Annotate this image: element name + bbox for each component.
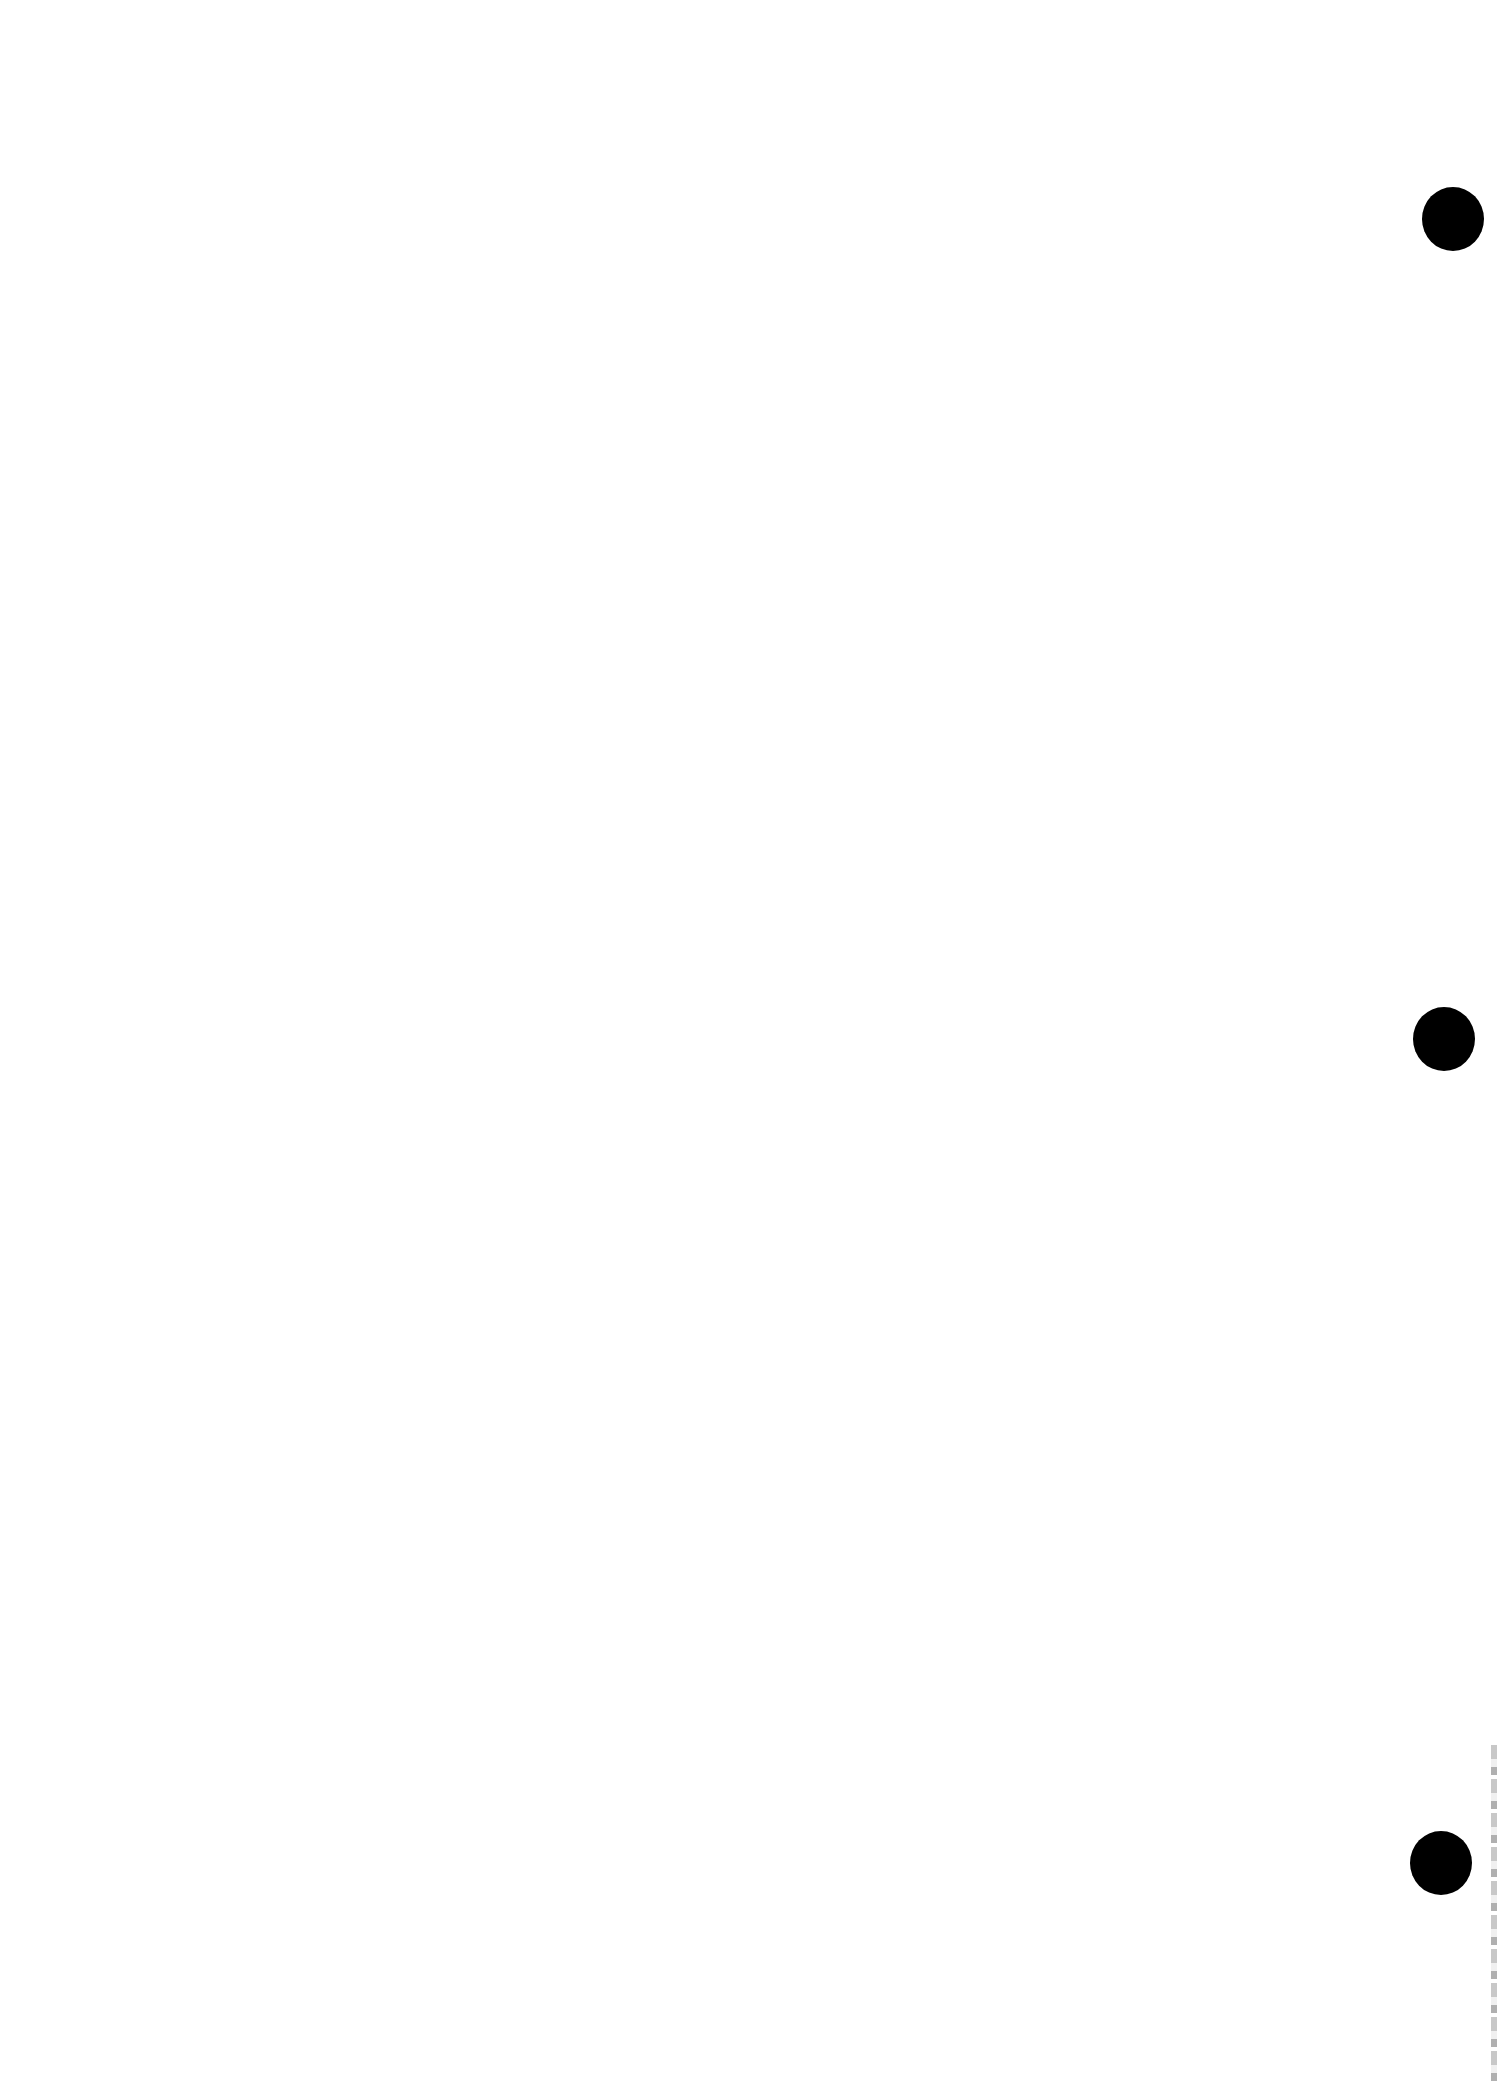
punch-hole-icon [1410, 1831, 1472, 1895]
punch-hole-icon [1413, 1007, 1475, 1071]
scan-edge-artifact [1491, 1745, 1497, 2082]
punch-hole-icon [1422, 187, 1484, 251]
blank-page [0, 0, 1497, 2082]
